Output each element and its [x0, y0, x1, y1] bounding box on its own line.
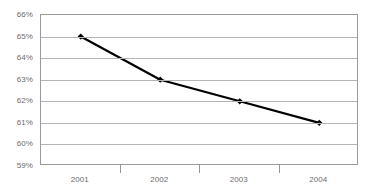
gridline	[41, 123, 357, 124]
x-tick-separator	[199, 165, 200, 173]
x-tick-label: 2003	[230, 175, 248, 185]
gridline	[41, 58, 357, 59]
x-tick-label: 2004	[309, 175, 327, 185]
x-axis: 2001200220032004	[40, 165, 358, 192]
plot-area	[40, 14, 358, 165]
gridline	[41, 144, 357, 145]
y-tick-label: 66%	[17, 10, 33, 19]
x-tick-label: 2001	[71, 175, 89, 185]
y-tick-label: 63%	[17, 74, 33, 83]
y-axis: 66%65%64%63%62%61%60%59%	[0, 14, 36, 165]
y-tick-label: 65%	[17, 31, 33, 40]
gridline	[41, 101, 357, 102]
gridline	[41, 37, 357, 38]
gridline	[41, 80, 357, 81]
x-tick-label: 2002	[150, 175, 168, 185]
y-tick-label: 62%	[17, 96, 33, 105]
line-chart-figure: 66%65%64%63%62%61%60%59% 200120022003200…	[0, 0, 368, 192]
x-tick-separator	[279, 165, 280, 173]
y-tick-label: 60%	[17, 139, 33, 148]
y-tick-label: 64%	[17, 53, 33, 62]
y-tick-label: 61%	[17, 117, 33, 126]
chart-title	[0, 0, 368, 2]
y-tick-label: 59%	[17, 161, 33, 170]
x-tick-separator	[120, 165, 121, 173]
